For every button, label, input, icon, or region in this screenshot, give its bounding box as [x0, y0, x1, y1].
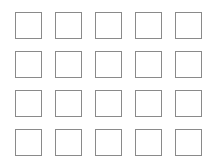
- square-grid: [0, 0, 208, 159]
- grid-square[interactable]: [175, 90, 202, 117]
- grid-square[interactable]: [175, 129, 202, 156]
- grid-square[interactable]: [135, 51, 162, 78]
- grid-square[interactable]: [15, 51, 42, 78]
- grid-square[interactable]: [95, 12, 122, 39]
- grid-square[interactable]: [175, 12, 202, 39]
- grid-square[interactable]: [55, 51, 82, 78]
- grid-square[interactable]: [55, 90, 82, 117]
- grid-square[interactable]: [135, 129, 162, 156]
- grid-square[interactable]: [15, 12, 42, 39]
- grid-square[interactable]: [95, 51, 122, 78]
- grid-square[interactable]: [15, 129, 42, 156]
- grid-square[interactable]: [175, 51, 202, 78]
- grid-square[interactable]: [55, 129, 82, 156]
- grid-square[interactable]: [135, 12, 162, 39]
- grid-square[interactable]: [95, 90, 122, 117]
- grid-square[interactable]: [95, 129, 122, 156]
- grid-square[interactable]: [15, 90, 42, 117]
- grid-square[interactable]: [135, 90, 162, 117]
- grid-square[interactable]: [55, 12, 82, 39]
